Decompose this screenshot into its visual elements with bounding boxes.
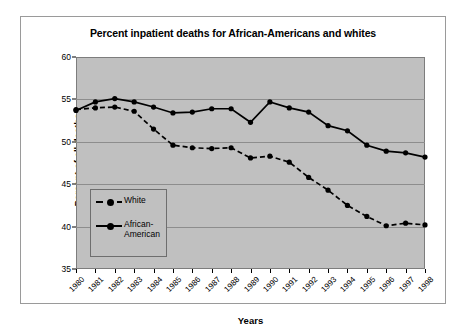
data-point — [170, 143, 175, 148]
y-axis-tick-label: 35 — [62, 264, 71, 274]
x-axis-tick-mark — [289, 269, 290, 273]
x-axis-tick-mark — [76, 269, 77, 273]
x-axis-tick-mark — [425, 269, 426, 273]
x-axis-tick-mark — [134, 269, 135, 273]
y-axis-tick-label: 60 — [62, 52, 71, 62]
x-axis-tick-mark — [270, 269, 271, 273]
plot-wrap: 354045505560 198019811982198319841985198… — [76, 57, 425, 269]
data-point — [112, 104, 117, 109]
data-point — [325, 188, 330, 193]
solid-line-marker-icon — [96, 220, 122, 231]
data-point — [345, 203, 350, 208]
x-axis-tick-mark — [309, 269, 310, 273]
x-axis-tick-mark — [192, 269, 193, 273]
data-point — [364, 214, 369, 219]
x-axis-tick-label: 1981 — [87, 275, 106, 294]
x-axis-tick-label: 1995 — [358, 275, 377, 294]
legend-item-african-american: African-American — [96, 220, 161, 239]
data-point — [151, 104, 156, 109]
data-point — [248, 120, 253, 125]
data-point — [345, 128, 350, 133]
y-axis-tick-label: 50 — [62, 137, 71, 147]
data-point — [422, 154, 427, 159]
data-point — [209, 106, 214, 111]
x-axis-tick-label: 1988 — [223, 275, 242, 294]
x-axis-tick-mark — [251, 269, 252, 273]
x-axis-tick-mark — [212, 269, 213, 273]
x-axis-tick-label: 1987 — [203, 275, 222, 294]
data-point — [190, 145, 195, 150]
x-axis-tick-mark — [386, 269, 387, 273]
chart-frame: Percent inpatient deaths for African-Ame… — [20, 16, 446, 304]
x-axis-tick-mark — [173, 269, 174, 273]
legend-item-white: White — [96, 196, 161, 207]
data-point — [403, 221, 408, 226]
data-point — [267, 154, 272, 159]
x-axis-tick-label: 1984 — [145, 275, 164, 294]
x-axis-tick-label: 1990 — [261, 275, 280, 294]
x-axis-tick-label: 1989 — [242, 275, 261, 294]
data-point — [151, 126, 156, 131]
data-point — [422, 222, 427, 227]
data-point — [248, 155, 253, 160]
legend-label-white: White — [124, 196, 146, 206]
x-axis-tick-label: 1986 — [184, 275, 203, 294]
x-axis-tick-label: 1982 — [106, 275, 125, 294]
series-line-african-american — [76, 99, 425, 158]
data-point — [403, 150, 408, 155]
x-axis-tick-label: 1993 — [319, 275, 338, 294]
data-point — [73, 108, 78, 113]
data-point — [229, 145, 234, 150]
data-point — [132, 109, 137, 114]
data-point — [384, 223, 389, 228]
chart-title: Percent inpatient deaths for African-Ame… — [21, 27, 445, 39]
dashed-line-marker-icon — [96, 196, 122, 207]
chart-legend: White African-American — [90, 189, 167, 257]
x-axis-tick-label: 1985 — [164, 275, 183, 294]
x-axis-tick-label: 1998 — [416, 275, 435, 294]
data-point — [325, 123, 330, 128]
data-point — [306, 175, 311, 180]
x-axis-tick-mark — [347, 269, 348, 273]
x-axis-tick-label: 1996 — [378, 275, 397, 294]
x-axis-tick-label: 1983 — [126, 275, 145, 294]
data-point — [364, 143, 369, 148]
x-axis-tick-mark — [95, 269, 96, 273]
y-axis-tick-label: 45 — [62, 179, 71, 189]
x-axis-title: Years — [76, 315, 425, 326]
x-axis-tick-label: 1994 — [339, 275, 358, 294]
x-axis-tick-mark — [231, 269, 232, 273]
data-point — [190, 110, 195, 115]
data-point — [306, 110, 311, 115]
data-point — [287, 160, 292, 165]
y-axis-tick-label: 40 — [62, 222, 71, 232]
data-point — [267, 99, 272, 104]
data-point — [209, 146, 214, 151]
data-point — [287, 105, 292, 110]
data-point — [229, 106, 234, 111]
x-axis-tick-mark — [406, 269, 407, 273]
data-point — [93, 99, 98, 104]
x-axis-tick-mark — [154, 269, 155, 273]
y-axis-tick-label: 55 — [62, 94, 71, 104]
x-axis-tick-label: 1991 — [281, 275, 300, 294]
legend-label-african-american: African-American — [124, 220, 161, 239]
x-axis-tick-mark — [328, 269, 329, 273]
x-axis-tick-label: 1992 — [300, 275, 319, 294]
x-axis-tick-label: 1980 — [67, 275, 86, 294]
x-axis-tick-mark — [115, 269, 116, 273]
x-axis-tick-mark — [367, 269, 368, 273]
data-point — [132, 99, 137, 104]
data-point — [112, 96, 117, 101]
data-point — [170, 110, 175, 115]
data-point — [93, 105, 98, 110]
data-point — [384, 149, 389, 154]
x-axis-tick-label: 1997 — [397, 275, 416, 294]
